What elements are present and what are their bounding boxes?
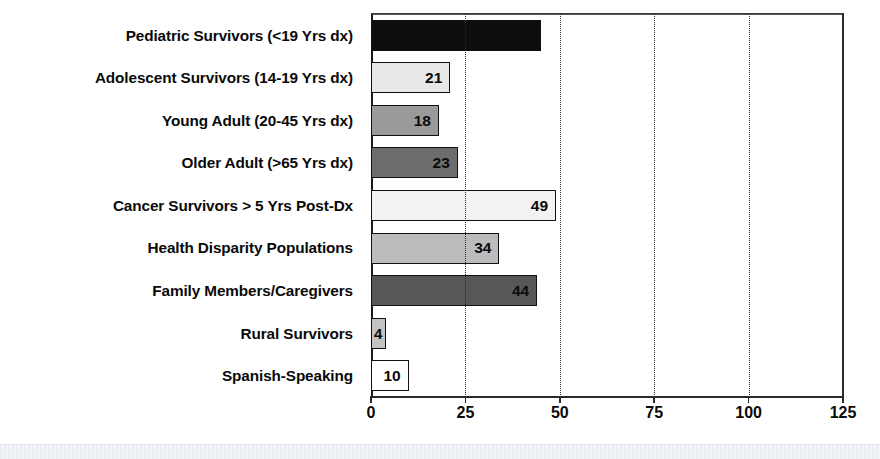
bar-row: 23 — [371, 142, 844, 185]
bar-value-label: 49 — [531, 198, 548, 214]
gridline — [560, 14, 561, 397]
bar[interactable]: 4 — [371, 318, 386, 349]
bar-value-label: 4 — [374, 326, 382, 341]
category-label-column: Pediatric Survivors (<19 Yrs dx)Adolesce… — [0, 14, 362, 397]
category-label: Health Disparity Populations — [0, 227, 362, 270]
bar[interactable]: 34 — [371, 233, 499, 264]
bar-row — [371, 14, 844, 57]
bar-row: 10 — [371, 354, 844, 397]
gridline — [465, 14, 466, 397]
bar-row: 44 — [371, 269, 844, 312]
x-axis-tick — [559, 396, 561, 403]
x-axis-tick-label: 100 — [735, 404, 762, 422]
x-axis-tick-label: 50 — [551, 404, 569, 422]
category-label: Adolescent Survivors (14-19 Yrs dx) — [0, 57, 362, 100]
bar-value-label: 44 — [512, 283, 529, 299]
bars-layer: 211823493444410 — [371, 14, 844, 397]
x-axis-tick — [370, 396, 372, 403]
x-axis-tick — [842, 396, 844, 403]
bar-row: 21 — [371, 57, 844, 100]
bar-value-label: 34 — [474, 240, 491, 256]
category-label: Rural Survivors — [0, 312, 362, 355]
bar[interactable]: 21 — [371, 62, 450, 93]
bar-row: 4 — [371, 312, 844, 355]
x-axis-tick-label: 75 — [645, 404, 663, 422]
gridline — [749, 14, 750, 397]
category-label: Pediatric Survivors (<19 Yrs dx) — [0, 14, 362, 57]
bottom-strip-texture — [0, 445, 880, 459]
gridline — [654, 14, 655, 397]
x-axis-line — [371, 396, 844, 398]
bar-value-label: 21 — [425, 70, 442, 86]
bar-row: 34 — [371, 227, 844, 270]
bar[interactable]: 23 — [371, 147, 458, 178]
bar-value-label: 18 — [414, 113, 431, 129]
bar[interactable]: 49 — [371, 190, 556, 221]
x-axis-tick — [653, 396, 655, 403]
category-label: Spanish-Speaking — [0, 355, 362, 398]
category-label: Family Members/Caregivers — [0, 269, 362, 312]
bar[interactable]: 10 — [371, 360, 409, 391]
bar[interactable]: 44 — [371, 275, 537, 306]
x-axis-tick-label: 125 — [830, 404, 857, 422]
plot-right-edge — [842, 14, 844, 397]
x-axis-tick — [465, 396, 467, 403]
bar[interactable]: 18 — [371, 105, 439, 136]
bottom-strip — [0, 444, 880, 459]
bar-row: 49 — [371, 184, 844, 227]
bar-value-label: 23 — [433, 155, 450, 171]
category-label: Cancer Survivors > 5 Yrs Post-Dx — [0, 184, 362, 227]
x-axis-tick — [748, 396, 750, 403]
x-axis-tick-label: 25 — [456, 404, 474, 422]
category-label: Older Adult (>65 Yrs dx) — [0, 142, 362, 185]
bar[interactable] — [371, 20, 541, 51]
bar-value-label: 10 — [384, 368, 401, 384]
bar-row: 18 — [371, 99, 844, 142]
category-label: Young Adult (20-45 Yrs dx) — [0, 99, 362, 142]
x-axis-tick-label: 0 — [367, 404, 376, 422]
